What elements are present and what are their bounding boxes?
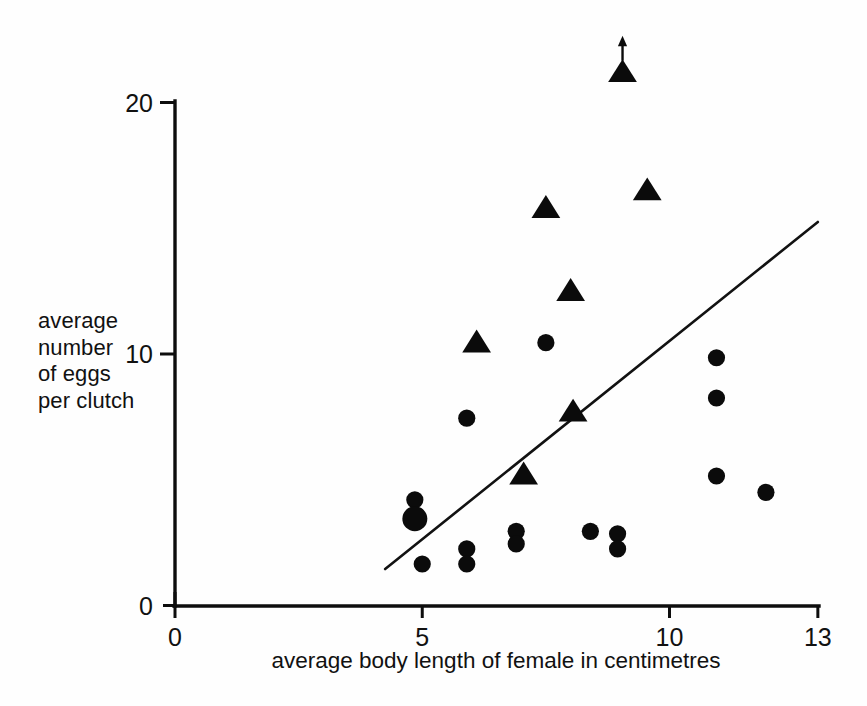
regression-line bbox=[385, 222, 818, 569]
x-axis-title: average body length of female in centime… bbox=[271, 648, 720, 673]
data-point-circle bbox=[708, 389, 725, 406]
data-point-circle bbox=[582, 523, 599, 540]
data-point-circle bbox=[708, 349, 725, 366]
data-point-triangle bbox=[462, 330, 491, 353]
data-point-circle bbox=[537, 334, 554, 351]
data-point-circle bbox=[609, 540, 626, 557]
data-point-circle bbox=[458, 410, 475, 427]
y-axis-ticks: 01020 bbox=[125, 89, 175, 620]
data-point-circle bbox=[609, 525, 626, 542]
scatter-plot: 01020 051013 average body length of fema… bbox=[0, 0, 867, 706]
y-tick-label: 0 bbox=[139, 592, 153, 620]
data-point-circle bbox=[458, 540, 475, 557]
data-point-circle bbox=[402, 506, 427, 531]
data-point-circle bbox=[708, 467, 725, 484]
x-tick-label: 5 bbox=[415, 623, 429, 651]
data-point-circle bbox=[458, 555, 475, 572]
chart-page: average number of eggs per clutch 01020 … bbox=[0, 0, 867, 706]
x-tick-label: 10 bbox=[656, 623, 684, 651]
annotations bbox=[618, 36, 627, 61]
x-tick-label: 0 bbox=[168, 623, 182, 651]
data-point-triangle bbox=[556, 278, 585, 301]
y-tick-label: 20 bbox=[125, 89, 153, 117]
data-point-circle bbox=[414, 555, 431, 572]
data-point-triangle bbox=[608, 59, 637, 82]
trend-line-path bbox=[385, 222, 818, 569]
y-tick-label: 10 bbox=[125, 340, 153, 368]
data-point-circle bbox=[757, 484, 774, 501]
data-points bbox=[402, 59, 774, 572]
data-point-triangle bbox=[532, 195, 561, 218]
data-point-circle bbox=[508, 535, 525, 552]
x-tick-label: 13 bbox=[804, 623, 832, 651]
x-axis-ticks: 051013 bbox=[168, 592, 832, 651]
data-point-circle bbox=[406, 491, 423, 508]
data-point-triangle bbox=[633, 177, 662, 200]
up-arrow-icon bbox=[618, 36, 627, 61]
